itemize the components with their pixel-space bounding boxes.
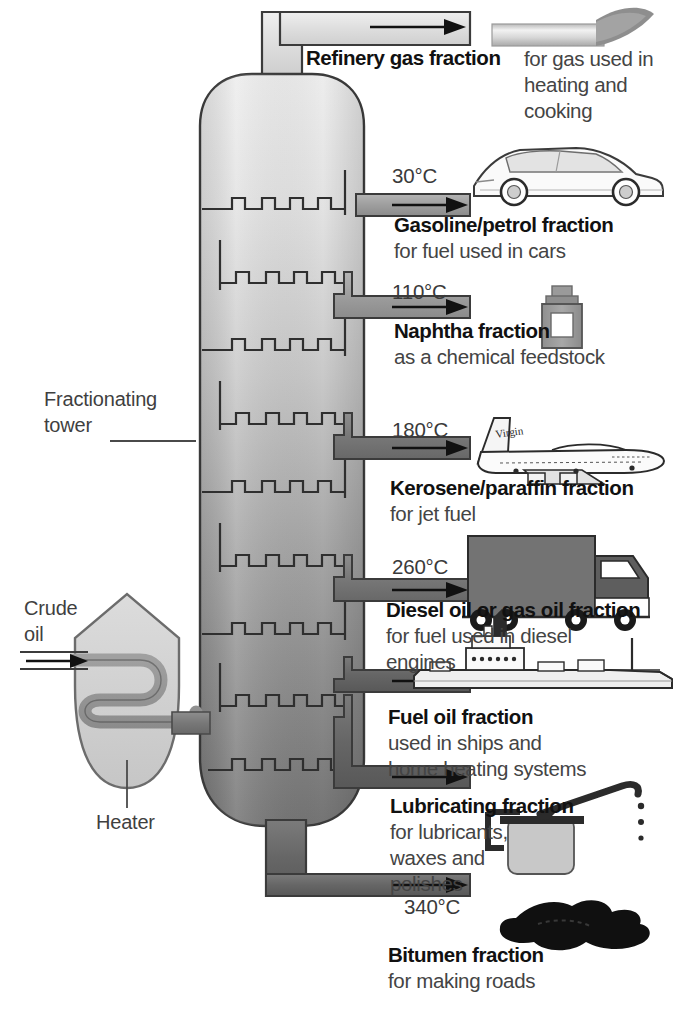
fraction-desc-lubricating-line3: polishes xyxy=(390,873,462,895)
fraction-desc-kerosene-line1: for jet fuel xyxy=(390,503,476,525)
car-icon xyxy=(474,148,663,205)
fractional-distillation-diagram: Virgin xyxy=(0,0,676,1014)
heater xyxy=(70,594,210,808)
crude-oil-label-line2: oil xyxy=(24,624,43,645)
tower-label-line2: tower xyxy=(44,415,92,436)
heater-to-tower-pipe xyxy=(172,712,210,734)
airplane-icon: Virgin xyxy=(478,418,664,484)
fraction-name-kerosene: Kerosene/paraffin fraction xyxy=(390,477,633,499)
fraction-temp-bitumen: 340°C xyxy=(404,896,460,918)
fraction-desc-lubricating-line2: waxes and xyxy=(390,847,485,869)
fraction-name-fuel-oil: Fuel oil fraction xyxy=(388,706,533,728)
fraction-name-gasoline: Gasoline/petrol fraction xyxy=(394,214,613,236)
fraction-name-diesel: Diesel oil or gas oil fraction xyxy=(386,599,640,621)
diagram-graphics: Virgin xyxy=(0,0,676,1014)
fraction-temp-gasoline: 30°C xyxy=(392,165,437,187)
heater-label: Heater xyxy=(96,812,155,833)
fraction-desc-refinery-gas-line2: heating and xyxy=(524,74,627,96)
fraction-desc-lubricating-line1: for lubricants, xyxy=(390,821,508,843)
fraction-temp-kerosene: 180°C xyxy=(392,419,448,441)
fraction-desc-bitumen-line1: for making roads xyxy=(388,970,535,992)
fraction-desc-fuel-oil-line2: home heating systems xyxy=(388,758,586,780)
fraction-desc-naphtha-line1: as a chemical feedstock xyxy=(394,346,605,368)
fraction-temp-diesel: 260°C xyxy=(392,556,448,578)
fraction-name-bitumen: Bitumen fraction xyxy=(388,944,544,966)
fraction-desc-refinery-gas-line1: for gas used in xyxy=(524,48,653,70)
fraction-desc-diesel-line2: engines xyxy=(386,651,455,673)
fraction-name-naphtha: Naphtha fraction xyxy=(394,320,550,342)
fraction-name-refinery-gas: Refinery gas fraction xyxy=(306,47,500,69)
tower-label-line1: Fractionating xyxy=(44,389,157,410)
fraction-desc-refinery-gas-line3: cooking xyxy=(524,100,592,122)
fraction-desc-fuel-oil-line1: used in ships and xyxy=(388,732,542,754)
fraction-name-lubricating: Lubricating fraction xyxy=(390,795,573,817)
svg-text:Virgin: Virgin xyxy=(495,424,525,440)
refinery-gas-outlet-pipe xyxy=(280,12,470,45)
fraction-temp-naphtha: 110°C xyxy=(392,281,447,303)
fraction-desc-gasoline-line1: for fuel used in cars xyxy=(394,240,566,262)
fraction-desc-diesel-line1: for fuel used in diesel xyxy=(386,625,572,647)
crude-oil-label-line1: Crude xyxy=(24,598,77,619)
gas-burner-flame-icon xyxy=(492,8,654,46)
